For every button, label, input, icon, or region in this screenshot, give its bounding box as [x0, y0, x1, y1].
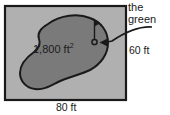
dimension-label-bottom-side: 80 ft: [56, 102, 76, 113]
golf-green-diagram: the green 60 ft 80 ft 1,800 ft2: [0, 0, 170, 115]
area-exponent: 2: [70, 42, 74, 49]
callout-label-line-2: green: [128, 14, 156, 26]
callout-label-the-green: the green: [128, 2, 156, 26]
area-label: 1,800 ft2: [33, 44, 74, 56]
golf-hole-circle: [92, 39, 97, 44]
dimension-label-right-side: 60 ft: [129, 45, 149, 56]
area-value: 1,800 ft: [33, 43, 70, 55]
